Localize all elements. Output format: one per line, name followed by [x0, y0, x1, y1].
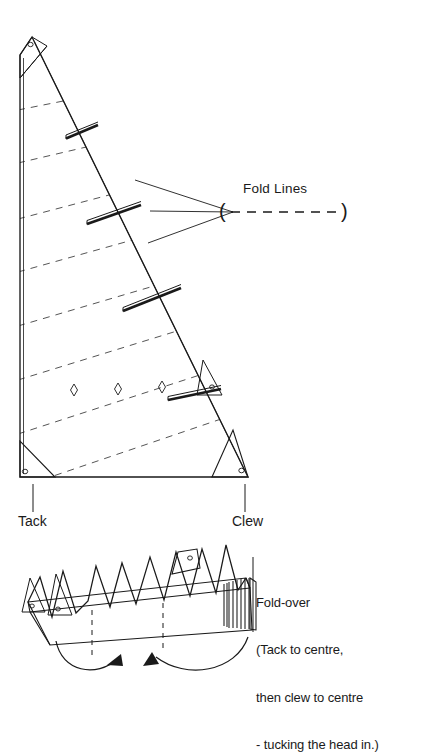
tack-label: Tack	[18, 513, 47, 530]
foldover-note-line-2: (Tack to centre,	[256, 642, 379, 658]
foldover-note-line-3: then clew to centre	[256, 690, 379, 706]
foldover-note-line-4: - tucking the head in.)	[256, 737, 379, 753]
foldover-note: Fold-over (Tack to centre, then clew to …	[256, 563, 379, 756]
legend-close-paren: )	[341, 200, 348, 222]
legend-open-paren: (	[219, 200, 226, 222]
foldover-note-line-1: Fold-over	[256, 595, 379, 611]
fold-lines-label: Fold Lines	[243, 181, 307, 197]
clew-label: Clew	[232, 513, 263, 530]
